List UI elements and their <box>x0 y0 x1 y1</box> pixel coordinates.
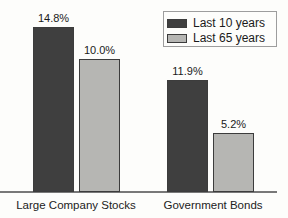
category-label-government-bonds: Government Bonds <box>163 198 262 212</box>
bar-last-10-years-large-company-stocks <box>33 27 74 192</box>
legend-item-last-65-years: Last 65 years <box>167 31 276 45</box>
legend-swatch-last-65-years <box>167 34 187 43</box>
legend-item-last-10-years: Last 10 years <box>167 16 276 30</box>
chart-legend: Last 10 years Last 65 years <box>163 11 277 47</box>
legend-label-last-65-years: Last 65 years <box>193 31 265 45</box>
category-label-large-company-stocks: Large Company Stocks <box>16 198 136 212</box>
legend-swatch-last-10-years <box>167 19 187 28</box>
bar-value-label-large-company-stocks-last-65-years: 10.0% <box>84 44 115 57</box>
bar-last-10-years-government-bonds <box>167 80 208 192</box>
bar-value-label-large-company-stocks-last-10-years: 14.8% <box>38 12 69 25</box>
bar-chart-figure: Last 10 years Last 65 years 14.8%10.0%11… <box>0 0 288 218</box>
bar-value-label-government-bonds-last-65-years: 5.2% <box>221 118 246 131</box>
bar-value-label-government-bonds-last-10-years: 11.9% <box>172 65 202 78</box>
bar-last-65-years-large-company-stocks <box>79 59 120 192</box>
bar-last-65-years-government-bonds <box>213 133 254 192</box>
legend-label-last-10-years: Last 10 years <box>193 16 265 30</box>
